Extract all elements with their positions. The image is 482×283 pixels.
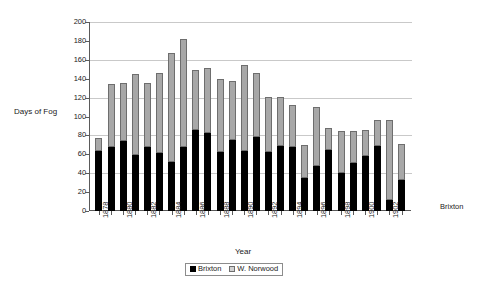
legend: Brixton W. Norwood [185,263,283,276]
x-tick-label: 1900 [368,202,376,218]
bar-segment-w-norwood [241,65,248,150]
x-tick-mark [172,211,173,215]
x-tick-mark [317,211,318,215]
legend-swatch-w-norwood-icon [229,266,235,272]
x-tick-label: 1896 [320,202,328,218]
legend-item-w-norwood: W. Norwood [229,265,278,273]
y-tick-label: 40 [46,169,86,177]
x-tick-mark [196,211,197,215]
bar-segment-w-norwood [120,83,127,142]
y-tick-label: 20 [46,188,86,196]
y-tick-label: 0 [46,207,86,215]
bar-segment-brixton [253,137,260,211]
y-tick-label: 60 [46,150,86,158]
bar-segment-w-norwood [362,130,369,156]
bar-segment-w-norwood [301,145,308,178]
bar-segment-w-norwood [265,97,272,153]
bar-segment-w-norwood [204,68,211,132]
bar-segment-w-norwood [325,128,332,150]
x-tick-label: 1888 [223,202,231,218]
x-tick-mark [159,211,160,215]
x-tick-mark [123,211,124,215]
x-tick-mark [208,211,209,215]
x-tick-mark [329,211,330,215]
x-tick-mark [111,211,112,215]
bar-segment-w-norwood [229,81,236,141]
bar-segment-w-norwood [144,83,151,147]
y-tick-label: 100 [46,113,86,121]
x-tick-mark [402,211,403,215]
bar-segment-w-norwood [386,120,393,199]
bar-segment-w-norwood [277,97,284,146]
bar-segment-w-norwood [338,131,345,174]
legend-swatch-brixton-icon [190,266,196,272]
bar-segment-w-norwood [132,74,139,155]
bar-segment-w-norwood [108,84,115,146]
bar-segment-brixton [192,130,199,211]
bars-container [90,22,411,211]
x-axis-title: Year [235,248,251,256]
x-tick-label: 1890 [247,202,255,218]
x-tick-label: 1882 [150,202,158,218]
x-tick-label: 1902 [392,202,400,218]
x-tick-label: 1884 [175,202,183,218]
fog-days-bar-chart: Days of Fog 020406080100120140160180200 … [0,0,482,283]
y-tick-label: 80 [46,131,86,139]
x-tick-label: 1898 [344,202,352,218]
bar-segment-w-norwood [313,107,320,166]
x-tick-mark [220,211,221,215]
x-tick-label: 1886 [199,202,207,218]
bar-segment-w-norwood [95,138,102,151]
bar-segment-w-norwood [180,39,187,147]
legend-label-w-norwood: W. Norwood [237,265,278,273]
x-tick-mark [232,211,233,215]
x-tick-mark [293,211,294,215]
x-tick-mark [99,211,100,215]
x-tick-label: 1892 [271,202,279,218]
x-tick-label: 1894 [296,202,304,218]
x-tick-mark [184,211,185,215]
x-tick-mark [135,211,136,215]
y-tick-label: 160 [46,56,86,64]
bar-segment-w-norwood [289,105,296,147]
y-tick-label: 200 [46,18,86,26]
y-tick-label: 140 [46,75,86,83]
legend-label-brixton: Brixton [198,265,221,273]
bar-segment-w-norwood [374,120,381,146]
legend-item-brixton: Brixton [190,265,221,273]
bar-segment-brixton [204,133,211,211]
bar-segment-brixton [229,140,236,211]
bar-segment-w-norwood [192,70,199,130]
x-tick-mark [281,211,282,215]
bar-segment-w-norwood [398,144,405,180]
bar-segment-brixton [120,141,127,211]
x-tick-mark [377,211,378,215]
y-tick-label: 180 [46,37,86,45]
x-tick-mark [305,211,306,215]
x-tick-label: 1878 [102,202,110,218]
bar-segment-w-norwood [217,79,224,153]
x-tick-mark [256,211,257,215]
bar-segment-w-norwood [168,53,175,162]
bar-segment-w-norwood [253,73,260,137]
x-tick-mark [341,211,342,215]
y-tick-label: 120 [46,94,86,102]
y-tick-mark [85,211,89,212]
x-tick-label: 1880 [126,202,134,218]
x-tick-mark [353,211,354,215]
bar-segment-w-norwood [350,131,357,163]
series-annotation-brixton: Brixton [440,203,463,211]
bar-segment-w-norwood [156,73,163,153]
